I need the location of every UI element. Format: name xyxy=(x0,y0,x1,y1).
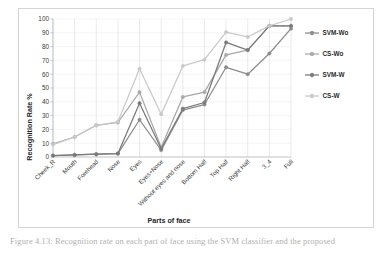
line-chart: 0102030405060708090100 Cheek_RMouthForeh… xyxy=(19,9,375,229)
y-tick-label: 20 xyxy=(42,126,50,133)
x-tick-label: Nose xyxy=(106,157,122,173)
y-tick-label: 10 xyxy=(42,140,50,147)
legend-marker xyxy=(310,31,314,35)
x-tick-label: Mouth xyxy=(61,157,79,175)
legend-item-svm-wo[interactable]: SVM-Wo xyxy=(305,29,348,36)
chart-frame: 0102030405060708090100 Cheek_RMouthForeh… xyxy=(18,8,374,228)
legend-label: CS-Wo xyxy=(323,50,344,57)
x-tick-label: Cheek_R xyxy=(33,157,57,181)
data-point xyxy=(268,52,271,55)
legend-label: SVM-W xyxy=(323,71,346,78)
data-point xyxy=(51,154,54,157)
legend-marker xyxy=(310,94,314,98)
x-tick-label: 3_4 xyxy=(260,157,273,170)
y-axis-title: Recognition Rate % xyxy=(25,93,34,161)
data-point xyxy=(138,67,141,70)
data-point xyxy=(224,53,227,56)
data-point xyxy=(181,107,184,110)
data-point xyxy=(138,118,141,121)
data-point xyxy=(159,113,162,116)
y-tick-label: 30 xyxy=(42,112,50,119)
data-point xyxy=(246,35,249,38)
figure-caption: Figure 4.13: Recognition rate on each pa… xyxy=(10,236,382,254)
data-point xyxy=(73,153,76,156)
data-point xyxy=(181,95,184,98)
legend-marker xyxy=(310,73,314,77)
data-point xyxy=(51,143,54,146)
y-tick-label: 100 xyxy=(38,15,49,22)
series-cs-w xyxy=(51,17,292,146)
data-point xyxy=(138,90,141,93)
data-point xyxy=(289,24,292,27)
data-point xyxy=(73,135,76,138)
data-point xyxy=(181,64,184,67)
legend-item-svm-w[interactable]: SVM-W xyxy=(305,71,345,78)
data-point xyxy=(159,147,162,150)
data-point xyxy=(95,153,98,156)
data-point xyxy=(246,48,249,51)
y-axis-ticks: 0102030405060708090100 xyxy=(38,15,53,160)
data-point xyxy=(224,41,227,44)
data-point xyxy=(224,66,227,69)
gridlines-group xyxy=(53,19,291,157)
data-point xyxy=(203,90,206,93)
data-point xyxy=(116,152,119,155)
figure-container: 0102030405060708090100 Cheek_RMouthForeh… xyxy=(0,0,392,258)
x-tick-label: Forehead xyxy=(76,157,100,181)
y-tick-label: 80 xyxy=(42,43,50,50)
legend-item-cs-w[interactable]: CS-W xyxy=(305,92,341,99)
legend-item-cs-wo[interactable]: CS-Wo xyxy=(305,50,343,57)
y-tick-label: 70 xyxy=(42,57,50,64)
data-point xyxy=(138,101,141,104)
y-tick-label: 90 xyxy=(42,29,50,36)
chart-legend: SVM-WoCS-WoSVM-WCS-W xyxy=(305,29,348,99)
x-tick-label: Top Half xyxy=(208,158,229,179)
data-point xyxy=(246,73,249,76)
y-tick-label: 50 xyxy=(42,84,50,91)
data-point xyxy=(116,120,119,123)
y-tick-label: 60 xyxy=(42,71,50,78)
data-point xyxy=(289,17,292,20)
x-tick-label: Right Half xyxy=(227,158,251,182)
caption-text: Figure 4.13: Recognition rate on each pa… xyxy=(10,236,382,246)
legend-label: CS-W xyxy=(323,92,341,99)
data-point xyxy=(268,24,271,27)
data-point xyxy=(203,101,206,104)
x-axis-ticks: Cheek_RMouthForeheadNoseEyesEyes+NoseWit… xyxy=(33,157,294,207)
data-point xyxy=(203,58,206,61)
legend-label: SVM-Wo xyxy=(323,29,349,36)
x-tick-label: Full xyxy=(282,158,294,170)
data-series-group xyxy=(51,17,292,157)
x-tick-label: Eyes xyxy=(128,158,143,173)
legend-marker xyxy=(310,52,314,56)
data-point xyxy=(224,30,227,33)
x-axis-title: Parts of face xyxy=(147,216,190,225)
y-tick-label: 40 xyxy=(42,98,50,105)
data-point xyxy=(95,124,98,127)
